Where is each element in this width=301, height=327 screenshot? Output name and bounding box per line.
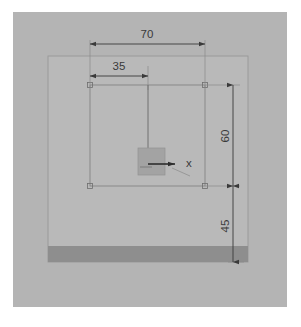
dimension-label-70: 70 bbox=[140, 28, 153, 40]
x-axis-label: x bbox=[186, 157, 192, 169]
drawing-canvas: 70 35 60 45 x bbox=[0, 0, 301, 327]
dimension-label-35: 35 bbox=[112, 60, 125, 72]
dimension-label-60: 60 bbox=[219, 129, 231, 142]
bottom-band bbox=[48, 246, 248, 262]
technical-drawing-svg: 70 35 60 45 x bbox=[0, 0, 301, 327]
center-block bbox=[138, 148, 165, 175]
dimension-label-45: 45 bbox=[219, 219, 231, 232]
